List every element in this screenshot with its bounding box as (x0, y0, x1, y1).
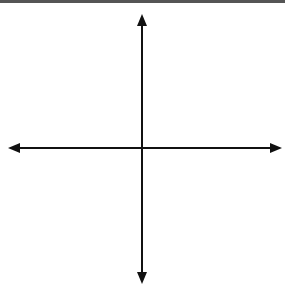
x-axis-left-arrow-icon (8, 143, 20, 153)
x-axis-right-arrow-icon (270, 143, 282, 153)
y-axis-down-arrow-icon (137, 272, 147, 284)
coordinate-plane (0, 0, 285, 290)
axes (8, 14, 282, 284)
y-axis-up-arrow-icon (137, 14, 147, 26)
